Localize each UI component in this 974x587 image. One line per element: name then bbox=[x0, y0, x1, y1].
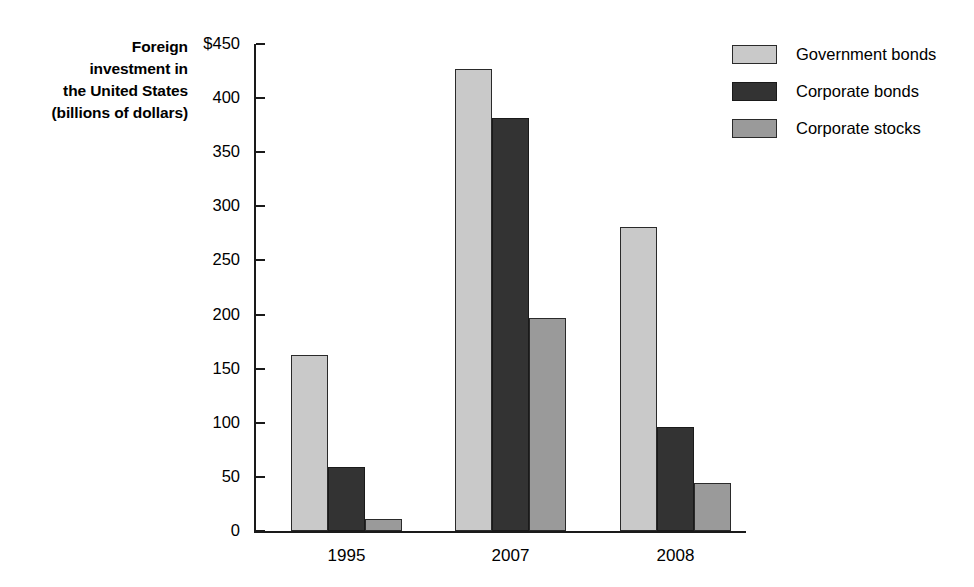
y-axis-tick-50 bbox=[256, 476, 265, 478]
legend-swatch-icon-0 bbox=[732, 45, 777, 64]
y-axis-tick-0 bbox=[256, 530, 265, 532]
legend-label-1: Corporate bonds bbox=[796, 82, 919, 101]
bar-2008-corporate-bonds bbox=[657, 427, 694, 531]
y-axis-tick-150 bbox=[256, 368, 265, 370]
x-axis-label-1995: 1995 bbox=[291, 546, 402, 566]
y-axis-label-450: $450 bbox=[180, 35, 240, 52]
legend-item-government-bonds: Government bonds bbox=[732, 36, 970, 73]
y-axis-tick-450 bbox=[256, 43, 265, 45]
bar-2007-corporate-bonds bbox=[492, 118, 529, 531]
y-axis-label-100: 100 bbox=[180, 414, 240, 431]
y-axis-label-250: 250 bbox=[180, 251, 240, 268]
plot-area: 199520072008 bbox=[254, 44, 744, 531]
y-axis-label-400: 400 bbox=[180, 89, 240, 106]
chart-title-line-3: the United States bbox=[0, 80, 188, 102]
y-axis-label-150: 150 bbox=[180, 360, 240, 377]
bar-2008-corporate-stocks bbox=[694, 483, 731, 531]
bar-2007-corporate-stocks bbox=[529, 318, 566, 531]
y-axis-tick-200 bbox=[256, 314, 265, 316]
legend-swatch-icon-2 bbox=[732, 119, 777, 138]
y-axis-line bbox=[254, 44, 256, 532]
bar-1995-corporate-bonds bbox=[328, 467, 365, 531]
chart-title-line-1: Foreign bbox=[0, 36, 188, 58]
chart-legend: Government bondsCorporate bondsCorporate… bbox=[732, 36, 970, 147]
chart-title-line-4: (billions of dollars) bbox=[0, 102, 188, 124]
y-axis-tick-300 bbox=[256, 205, 265, 207]
chart-title: Foreign investment in the United States … bbox=[0, 36, 188, 124]
chart-title-line-2: investment in bbox=[0, 58, 188, 80]
y-axis-label-50: 50 bbox=[180, 468, 240, 485]
y-axis-tick-100 bbox=[256, 422, 265, 424]
y-axis-tick-350 bbox=[256, 151, 265, 153]
x-axis-line bbox=[254, 531, 746, 533]
y-axis-tick-250 bbox=[256, 259, 265, 261]
legend-item-corporate-bonds: Corporate bonds bbox=[732, 73, 970, 110]
y-axis-label-300: 300 bbox=[180, 197, 240, 214]
bar-1995-corporate-stocks bbox=[365, 519, 402, 531]
bar-1995-government-bonds bbox=[291, 355, 328, 531]
y-axis-tick-labels: 050100150200250300350400$450 bbox=[178, 44, 240, 534]
y-axis-label-350: 350 bbox=[180, 143, 240, 160]
bar-2007-government-bonds bbox=[455, 69, 492, 531]
y-axis-label-200: 200 bbox=[180, 306, 240, 323]
legend-label-2: Corporate stocks bbox=[796, 119, 921, 138]
y-axis-label-0: 0 bbox=[180, 522, 240, 539]
x-axis-label-2007: 2007 bbox=[455, 546, 566, 566]
x-axis-label-2008: 2008 bbox=[620, 546, 731, 566]
y-axis-tick-400 bbox=[256, 97, 265, 99]
bar-2008-government-bonds bbox=[620, 227, 657, 531]
chart-page: Foreign investment in the United States … bbox=[0, 0, 974, 587]
legend-swatch-icon-1 bbox=[732, 82, 777, 101]
legend-label-0: Government bonds bbox=[796, 45, 936, 64]
legend-item-corporate-stocks: Corporate stocks bbox=[732, 110, 970, 147]
